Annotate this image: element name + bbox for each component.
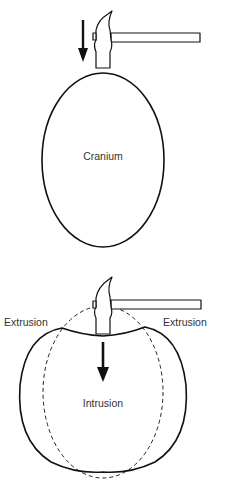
extrusion-right-label: Extrusion [163, 316, 207, 328]
intrusion-label: Intrusion [83, 397, 123, 409]
hammer-icon [93, 11, 200, 68]
extrusion-left-label: Extrusion [4, 316, 48, 328]
cranium-label: Cranium [83, 150, 123, 162]
bottom-figure: Extrusion Extrusion Intrusion [4, 277, 207, 478]
top-figure: Cranium [42, 11, 200, 247]
down-arrow-icon [97, 342, 109, 382]
down-arrow-icon [78, 20, 88, 62]
diagram-canvas: Cranium Extrusion Extrusion Intrusion [0, 0, 227, 485]
